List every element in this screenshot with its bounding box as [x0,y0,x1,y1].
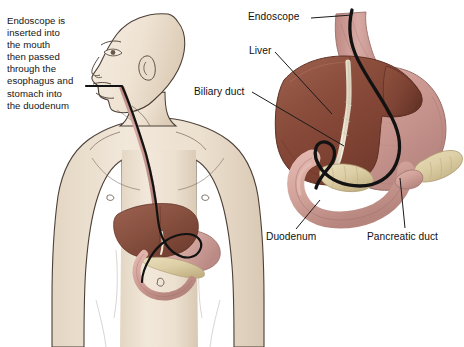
nipple-left [107,195,114,200]
label-endoscope: Endoscope [248,11,299,22]
liver-right-lobe [383,66,422,116]
enlarged-anatomy-group [275,10,462,220]
hip-line-right [210,300,220,347]
abdomen-contour-left [114,250,117,318]
illustration-canvas: Endoscope is inserted into the mouth the… [0,0,464,347]
label-pancreatic-duct: Pancreatic duct [367,231,438,242]
pupil-shape [111,50,116,55]
hip-line-left [96,300,106,347]
nipple-right [202,195,209,200]
label-biliary-duct: Biliary duct [194,86,244,97]
ear-shape [139,56,155,80]
caption-text: Endoscope is inserted into the mouth the… [7,15,103,112]
label-liver: Liver [249,45,271,56]
label-duodenum: Duodenum [266,231,316,242]
